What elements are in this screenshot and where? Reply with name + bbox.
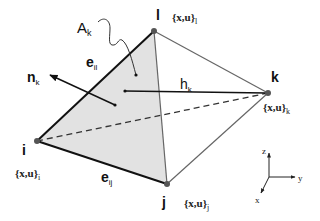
vertex-j: [164, 181, 170, 187]
area-dot: [134, 73, 137, 76]
vertex-k: [265, 90, 271, 96]
vertex-l: [151, 28, 157, 34]
normal-label: nk: [27, 69, 41, 87]
axis-label-x: x: [255, 195, 260, 205]
data-label-k: {x,u}k: [263, 101, 290, 116]
coordinate-axes: z y x: [255, 146, 303, 205]
data-label-l: {x,u}l: [172, 11, 198, 26]
shaded-face-ilj: [37, 31, 167, 184]
axis-x: [261, 177, 269, 193]
vertex-label-k: k: [271, 69, 279, 85]
edge-lk: [154, 31, 268, 93]
height-origin-dot: [123, 89, 126, 92]
axis-label-y: y: [298, 173, 303, 183]
edge-label-il: eil: [86, 54, 98, 72]
edge-label-ij: eij: [101, 169, 113, 187]
vertex-label-j: j: [161, 194, 166, 210]
vertex-i: [34, 138, 40, 144]
vertex-label-i: i: [22, 142, 26, 158]
data-label-j: {x,u}j: [184, 197, 209, 212]
area-label: Ak: [77, 19, 92, 38]
normal-origin-dot: [113, 103, 116, 106]
data-label-i: {x,u}i: [15, 167, 41, 182]
height-label: hk: [180, 76, 193, 94]
axis-label-z: z: [262, 146, 266, 156]
edge-jk: [167, 93, 268, 184]
tetrahedron-diagram: l k i j {x,u}l {x,u}k {x,u}i {x,u}j eil …: [0, 0, 320, 221]
vertex-label-l: l: [156, 7, 160, 23]
